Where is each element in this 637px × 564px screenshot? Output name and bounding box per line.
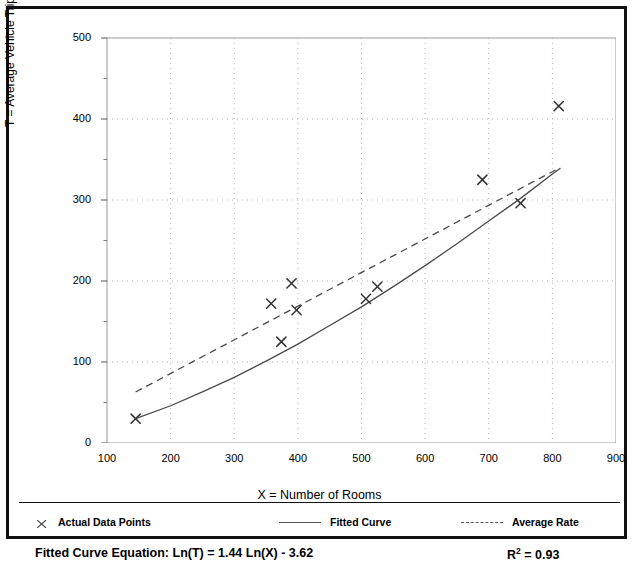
r-squared-symbol: R bbox=[507, 548, 516, 562]
r-squared-value: R2 = 0.93 bbox=[507, 546, 559, 562]
x-tick-label-600: 600 bbox=[403, 452, 447, 464]
data-point-marker bbox=[554, 101, 563, 110]
data-point-marker bbox=[277, 337, 286, 346]
legend-label: Actual Data Points bbox=[58, 516, 151, 528]
plot-area bbox=[101, 32, 616, 443]
solid-line-icon bbox=[279, 516, 321, 528]
data-point-marker bbox=[516, 199, 525, 208]
y-tick-label-100: 100 bbox=[53, 355, 91, 367]
x-tick-label-500: 500 bbox=[340, 452, 384, 464]
r-squared-exponent: 2 bbox=[516, 546, 521, 556]
y-axis-title-text: T = Average Vehicle Trip Ends bbox=[3, 0, 17, 127]
chart-canvas bbox=[101, 32, 616, 443]
x-tick-label-300: 300 bbox=[212, 452, 256, 464]
x-marker-icon bbox=[35, 516, 49, 528]
data-point-marker bbox=[478, 175, 487, 184]
equation-footer: Fitted Curve Equation: Ln(T) = 1.44 Ln(X… bbox=[9, 546, 630, 564]
r-squared-number: = 0.93 bbox=[524, 548, 559, 562]
y-tick-label-400: 400 bbox=[53, 112, 91, 124]
y-tick-label-300: 300 bbox=[53, 193, 91, 205]
y-tick-label-500: 500 bbox=[53, 31, 91, 43]
x-tick-label-400: 400 bbox=[276, 452, 320, 464]
footer-divider bbox=[19, 502, 620, 503]
legend-item-average-rate: Average Rate bbox=[461, 512, 579, 532]
legend-label: Fitted Curve bbox=[330, 516, 391, 528]
data-point-marker bbox=[361, 294, 370, 303]
dashed-line-icon bbox=[461, 516, 503, 528]
x-tick-label-200: 200 bbox=[149, 452, 193, 464]
x-tick-label-100: 100 bbox=[85, 452, 129, 464]
chart-figure-frame: 5004003002001000 10020030040050060070080… bbox=[6, 6, 627, 539]
legend-item-fitted-curve: Fitted Curve bbox=[279, 512, 391, 532]
data-point-marker bbox=[131, 414, 140, 423]
x-axis-title: X = Number of Rooms bbox=[9, 488, 630, 502]
x-tick-label-800: 800 bbox=[530, 452, 574, 464]
legend-item-actual-data-points: Actual Data Points bbox=[35, 512, 151, 532]
x-tick-label-900: 900 bbox=[594, 452, 637, 464]
legend-label: Average Rate bbox=[512, 516, 579, 528]
data-point-marker bbox=[373, 282, 382, 291]
fitted-curve-equation: Fitted Curve Equation: Ln(T) = 1.44 Ln(X… bbox=[35, 546, 313, 560]
y-tick-label-200: 200 bbox=[53, 274, 91, 286]
data-point-marker bbox=[267, 299, 276, 308]
y-tick-label-0: 0 bbox=[53, 436, 91, 448]
x-tick-label-700: 700 bbox=[467, 452, 511, 464]
data-point-marker bbox=[287, 279, 296, 288]
y-axis-title: T = Average Vehicle Trip Ends bbox=[3, 0, 17, 127]
chart-legend: Actual Data Points Fitted Curve Average … bbox=[9, 512, 630, 536]
